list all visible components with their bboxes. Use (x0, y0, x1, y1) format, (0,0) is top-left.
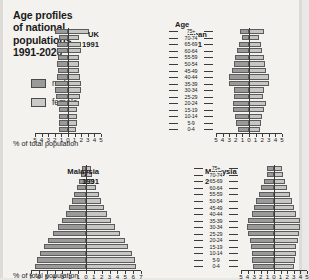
bar-male (253, 264, 274, 269)
age-group-label: 25-29 (184, 94, 199, 100)
bar-female (68, 68, 79, 73)
bar-male (229, 81, 249, 86)
bar-male (62, 218, 86, 223)
bar-female (249, 61, 265, 66)
bar-female (249, 87, 264, 92)
x-axis-tick-label: 4 (221, 136, 224, 143)
bar-female (68, 61, 79, 66)
bar-female (274, 244, 296, 249)
caption-country: Malaysia (67, 167, 99, 177)
x-axis-tick-label: 2 (259, 273, 262, 280)
bar-male (252, 251, 274, 256)
pyramid-center-line (249, 28, 250, 133)
bar-male (248, 231, 274, 236)
bar-female (274, 257, 295, 262)
bar-male (251, 244, 274, 249)
bar-female (249, 29, 264, 34)
bar-female (68, 87, 81, 92)
x-axis-tick-label: 2 (53, 136, 56, 143)
bar-male (267, 166, 274, 171)
bar-male (259, 192, 274, 197)
x-axis-tick-label: 0 (247, 136, 250, 143)
x-axis-tick-label: 1 (73, 136, 76, 143)
bar-female (68, 48, 81, 53)
age-group-label: 75+ (186, 28, 197, 34)
x-axis-tick-label: 5 (214, 136, 217, 143)
bar-female (249, 55, 264, 60)
x-axis-tick-label: 3 (46, 136, 49, 143)
age-group-label: 65-69 (184, 41, 199, 47)
age-group-label: 45-49 (184, 68, 199, 74)
age-group-label: 35-39 (184, 81, 199, 87)
bar-male (248, 218, 274, 223)
age-group-label: 15-19 (184, 107, 199, 113)
x-axis-tick-label: 5 (280, 136, 283, 143)
bar-male (239, 42, 249, 47)
bar-male (254, 205, 274, 210)
bar-male (58, 55, 68, 60)
bar-male (252, 211, 274, 216)
x-axis-tick-label: 5 (45, 273, 48, 280)
age-group-label: 5-9 (186, 120, 195, 126)
bar-male (66, 211, 86, 216)
x-axis-tick-label: 1 (92, 273, 95, 280)
bar-male (59, 35, 68, 40)
bar-male (237, 48, 249, 53)
age-group-label: 70-74 (184, 35, 199, 41)
chart-japan-1991: 54321012345 (216, 28, 282, 133)
x-axis-tick-label: 0 (272, 273, 275, 280)
bar-female (274, 238, 298, 243)
bar-male (58, 224, 86, 229)
bar-female (68, 42, 81, 47)
bar-female (249, 120, 261, 125)
x-axis-tick-label: 2 (234, 136, 237, 143)
pyramid-bars (31, 165, 141, 270)
x-axis-tick-label: 1 (60, 136, 63, 143)
bar-female (274, 224, 300, 229)
bar-female (274, 179, 285, 184)
age-group-label: 55-59 (209, 191, 224, 197)
age-group-label: 60-64 (209, 185, 224, 191)
x-axis-tick-label: 4 (53, 273, 56, 280)
x-axis-tick-label: 1 (241, 136, 244, 143)
bar-female (249, 48, 262, 53)
bar-female (86, 251, 132, 256)
x-axis-tick-label: 1 (76, 273, 79, 280)
bar-male (56, 94, 68, 99)
bar-male (72, 198, 86, 203)
x-axis-tick-label: 6 (37, 273, 40, 280)
caption-country: UK (82, 30, 99, 40)
bar-female (68, 35, 79, 40)
chart-caption-malaysia-1991: Malaysia 1991 (67, 167, 99, 186)
bar-male (57, 42, 68, 47)
x-axis-tick-label: 4 (274, 136, 277, 143)
x-axis-tick-label: 1 (279, 273, 282, 280)
bar-male (240, 29, 249, 34)
bar-female (86, 192, 99, 197)
bar-male (235, 55, 249, 60)
bar-female (274, 166, 282, 171)
bar-male (59, 120, 68, 125)
x-axis-tick-label: 2 (79, 136, 82, 143)
age-tick-row: 0-4 (169, 126, 213, 133)
bar-female (68, 94, 80, 99)
age-group-label: 70-74 (209, 172, 224, 178)
bar-male (238, 127, 249, 132)
x-axis-tick-label: 4 (299, 273, 302, 280)
bar-female (274, 192, 290, 197)
bar-female (68, 81, 81, 86)
bar-male (44, 244, 86, 249)
age-group-label: 45-49 (209, 205, 224, 211)
pyramid-bars (241, 165, 307, 270)
x-axis-tick-label: 2 (260, 136, 263, 143)
age-group-label: 55-59 (184, 54, 199, 60)
x-axis-tick-label: 1 (254, 136, 257, 143)
x-axis-tick-label: 4 (116, 273, 119, 280)
bar-male (58, 68, 68, 73)
bar-male (55, 81, 68, 86)
bar-female (86, 198, 101, 203)
age-group-label: 5-9 (211, 257, 220, 263)
age-group-label: 15-19 (209, 244, 224, 250)
bar-male (235, 114, 249, 119)
bar-male (57, 74, 68, 79)
